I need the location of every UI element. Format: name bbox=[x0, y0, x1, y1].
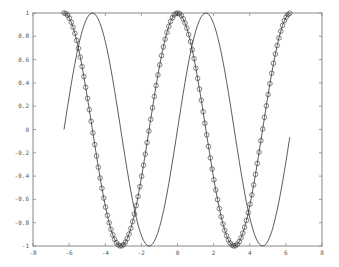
y-tick-label: 1 bbox=[25, 9, 29, 16]
x-tick-label: -4 bbox=[102, 249, 110, 256]
x-tick-label: 4 bbox=[248, 249, 252, 256]
x-tick-label: 0 bbox=[176, 249, 180, 256]
x-tick-label: 2 bbox=[212, 249, 216, 256]
y-tick-label: 0.2 bbox=[18, 102, 29, 109]
y-tick-label: -0.2 bbox=[15, 149, 30, 156]
x-tick-label: -2 bbox=[138, 249, 146, 256]
y-tick-label: 0.6 bbox=[18, 56, 29, 63]
y-tick-label: 0 bbox=[25, 126, 29, 133]
x-tick-label: 6 bbox=[284, 249, 288, 256]
x-tick-label: -6 bbox=[66, 249, 74, 256]
x-tick-label: 8 bbox=[320, 249, 324, 256]
plot-figure: -8-6-4-202468 -1-0.8-0.6-0.4-0.200.20.40… bbox=[0, 0, 339, 267]
x-tick-label: -8 bbox=[29, 249, 37, 256]
y-tick-label: -0.4 bbox=[15, 172, 30, 179]
y-tick-label: 0.8 bbox=[18, 32, 29, 39]
y-tick-label: 0.4 bbox=[18, 79, 29, 86]
y-tick-label: -1 bbox=[22, 242, 30, 249]
y-tick-label: -0.6 bbox=[15, 195, 30, 202]
y-tick-label: -0.8 bbox=[15, 219, 30, 226]
